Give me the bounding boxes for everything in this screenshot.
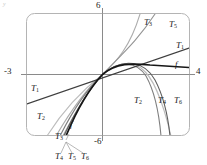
label-T6-right: T6 xyxy=(174,96,182,106)
label-T5-bottom: T5 xyxy=(68,152,76,162)
label-T5-top: T5 xyxy=(169,20,177,30)
label-T4-right: T4 xyxy=(158,96,166,106)
label-T2-right: T2 xyxy=(134,96,142,106)
label-T1-left: T1 xyxy=(31,84,39,94)
label-T4-bottom: T4 xyxy=(55,152,63,162)
label-f-right: f xyxy=(175,60,178,69)
label-T2-left: T2 xyxy=(37,112,45,122)
label-T3-bottom: T3 xyxy=(55,132,63,142)
tick-label-right: 4 xyxy=(196,67,201,76)
taylor-polynomial-figure: y xyxy=(0,0,207,165)
tick-label-bottom: -6 xyxy=(94,137,102,146)
label-T6-bottom: T6 xyxy=(81,152,89,162)
label-T3-top: T3 xyxy=(144,18,152,28)
tick-label-top: 6 xyxy=(96,1,101,10)
label-f-bottom: f xyxy=(70,120,73,129)
label-T1-right: T1 xyxy=(176,41,184,51)
tick-label-left: -3 xyxy=(4,67,12,76)
